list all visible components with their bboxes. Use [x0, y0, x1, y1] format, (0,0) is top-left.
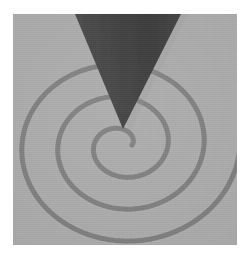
- image-canvas: [0, 0, 249, 264]
- spiral-main-path: [22, 65, 237, 241]
- spiral-groove-graphic: [13, 14, 237, 245]
- gray-square-panel: [13, 14, 237, 245]
